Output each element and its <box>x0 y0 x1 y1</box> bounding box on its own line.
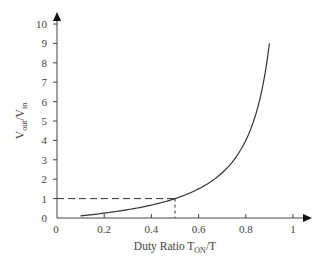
chart-canvas: 012345678910 00.20.40.60.81 Duty Ratio T… <box>0 0 326 262</box>
x-tick-label: 0.2 <box>97 223 111 235</box>
x-axis-title: Duty Ratio TON/T <box>134 240 216 255</box>
y-ticks: 012345678910 <box>36 18 57 224</box>
data-line <box>81 43 270 215</box>
annotations <box>57 199 175 218</box>
y-tick-label: 9 <box>42 37 48 49</box>
y-axis-arrow-icon <box>53 12 61 21</box>
y-tick-label: 5 <box>42 115 48 127</box>
x-tick-label: 1 <box>290 223 296 235</box>
y-tick-label: 6 <box>42 96 48 108</box>
x-tick-label: 0.8 <box>239 223 253 235</box>
x-tick-label: 0.6 <box>192 223 206 235</box>
y-tick-label: 4 <box>42 134 48 146</box>
y-tick-label: 1 <box>42 193 48 205</box>
y-tick-label: 3 <box>42 154 48 166</box>
y-tick-label: 10 <box>36 18 48 30</box>
x-tick-label: 0 <box>53 223 59 235</box>
axes <box>53 12 312 222</box>
x-axis-arrow-icon <box>303 214 312 222</box>
y-axis-title: Vout/Vin <box>14 103 29 139</box>
y-tick-label: 2 <box>42 173 48 185</box>
y-tick-label: 7 <box>42 76 48 88</box>
y-tick-label: 8 <box>42 57 48 69</box>
y-tick-label: 0 <box>42 212 48 224</box>
x-tick-label: 0.4 <box>145 223 159 235</box>
